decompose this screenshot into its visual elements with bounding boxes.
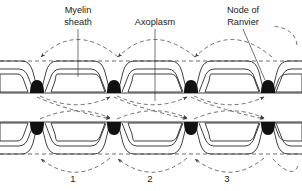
lower-axon-group	[0, 122, 302, 154]
current-arc-inner-top-2	[117, 96, 187, 105]
node-of-ranvier-lower-4	[261, 122, 275, 135]
node-of-ranvier-upper-3	[184, 80, 198, 93]
node-of-ranvier-upper-4	[261, 80, 275, 93]
node-of-ranvier-lower-1	[30, 122, 44, 135]
current-arc-inner-top-3	[194, 96, 264, 105]
current-arc-inner-bottom-3	[194, 111, 264, 119]
node-of-ranvier-lower-3	[184, 122, 198, 135]
current-arc-outer-top-4	[272, 26, 297, 45]
myelinated-axon-diagram: Myelin sheath Axoplasm Node of Ranvier 1…	[0, 0, 302, 191]
current-arc-inner-bottom-1	[40, 111, 110, 119]
upper-axon-group	[0, 61, 302, 93]
local-current-loops-outer-top	[41, 26, 297, 57]
leader-node-of-ranvier	[243, 29, 265, 80]
lower-myelin-inner-segments	[0, 123, 302, 146]
current-arc-inner-bottom-2	[117, 111, 187, 119]
label-axoplasm: Axoplasm	[135, 17, 176, 27]
current-arc-outer-bottom-3	[195, 158, 264, 172]
upper-nodes-group	[30, 80, 275, 93]
step-number-1: 1	[70, 173, 75, 184]
label-node-of-ranvier-line2: Ranvier	[227, 17, 259, 27]
current-arc-outer-top-1	[41, 40, 118, 58]
node-of-ranvier-upper-1	[30, 80, 44, 93]
local-current-loops-inner	[37, 96, 264, 119]
label-node-of-ranvier-line1: Node of	[227, 5, 260, 15]
upper-myelin-outer-segments	[0, 61, 302, 92]
diagram-canvas: Myelin sheath Axoplasm Node of Ranvier 1…	[0, 0, 302, 191]
step-number-3: 3	[224, 173, 229, 184]
lower-nodes-group	[30, 122, 275, 135]
label-myelin-sheath-line2: sheath	[64, 17, 92, 27]
current-arc-outer-bottom-2	[118, 158, 187, 172]
step-number-2: 2	[147, 173, 152, 184]
current-arc-inner-top-1	[40, 96, 110, 105]
lower-myelin-outer-segments	[0, 123, 302, 154]
local-current-loops-outer-bottom	[41, 158, 298, 172]
current-arc-outer-bottom-4	[272, 158, 298, 171]
label-leaders	[78, 29, 265, 101]
upper-myelin-inner-segments	[0, 69, 302, 92]
current-arc-outer-bottom-1	[41, 158, 110, 172]
current-arc-outer-top-2	[118, 40, 195, 58]
label-myelin-sheath-line1: Myelin	[65, 5, 92, 15]
step-numbers: 1 2 3	[70, 173, 229, 184]
current-arc-outer-top-3	[195, 40, 272, 58]
text-labels: Myelin sheath Axoplasm Node of Ranvier	[64, 5, 259, 27]
node-of-ranvier-upper-2	[107, 80, 121, 93]
node-of-ranvier-lower-2	[107, 122, 121, 135]
